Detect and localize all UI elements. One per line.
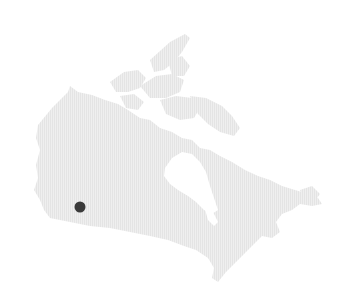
canada-map xyxy=(0,0,342,303)
location-marker[interactable] xyxy=(75,202,86,213)
map-svg xyxy=(0,0,342,303)
